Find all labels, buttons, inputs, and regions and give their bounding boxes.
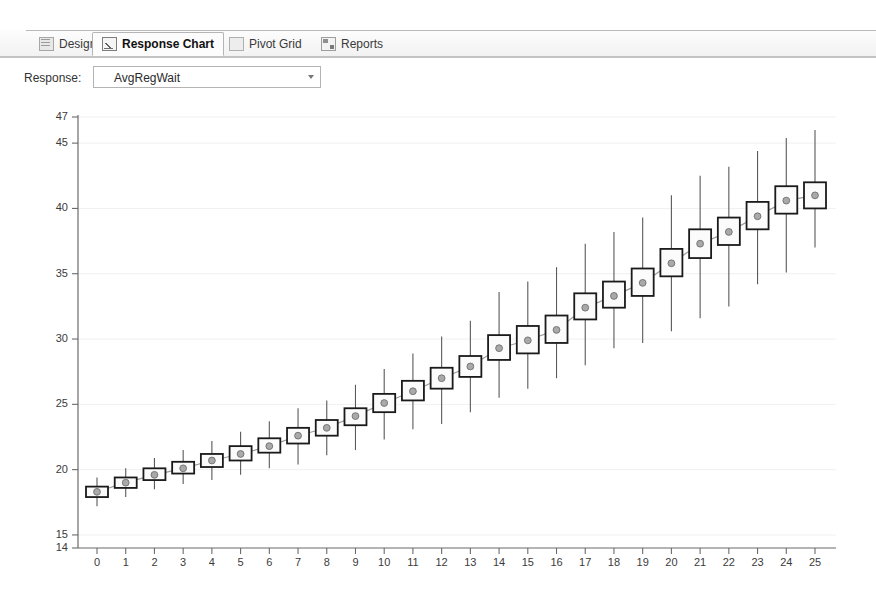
y-tick-label: 15 [56, 528, 68, 540]
tab-label: Response Chart [122, 37, 214, 51]
x-tick-label: 8 [324, 556, 330, 568]
response-label: Response: [24, 71, 81, 85]
x-tick-label: 6 [266, 556, 272, 568]
box-plot-item[interactable] [258, 421, 280, 468]
y-tick-label: 45 [56, 136, 68, 148]
x-tick-label: 21 [694, 556, 706, 568]
box-plot-item[interactable] [287, 408, 309, 464]
chart-icon [102, 37, 117, 51]
box-plot-item[interactable] [172, 450, 194, 484]
box-plot-item[interactable] [804, 130, 826, 248]
x-tick-label: 4 [209, 556, 215, 568]
box-plot-item[interactable] [517, 282, 539, 389]
box-plot-item[interactable] [230, 432, 252, 475]
y-tick-label: 40 [56, 201, 68, 213]
box-plot-item[interactable] [459, 321, 481, 412]
box-plot-item[interactable] [689, 176, 711, 318]
tab-strip: Design Response Chart Pivot Grid Reports [0, 30, 876, 58]
box-plot-item[interactable] [603, 232, 625, 348]
x-tick-label: 15 [522, 556, 534, 568]
box-plot-item[interactable] [632, 218, 654, 343]
pivot-icon [229, 37, 244, 51]
y-tick-label: 35 [56, 267, 68, 279]
y-tick-label: 47 [56, 110, 68, 122]
box-plot-item[interactable] [747, 151, 769, 284]
x-tick-label: 19 [637, 556, 649, 568]
box-plot-item[interactable] [143, 458, 165, 489]
tab-label: Reports [341, 37, 383, 51]
x-tick-label: 18 [608, 556, 620, 568]
box-plot-item[interactable] [344, 385, 366, 450]
x-tick-label: 7 [295, 556, 301, 568]
x-tick-label: 16 [550, 556, 562, 568]
tab-strip-top-divider [26, 30, 876, 31]
x-tick-label: 5 [238, 556, 244, 568]
box-plot-item[interactable] [115, 468, 137, 497]
grid-icon [39, 37, 54, 51]
tab-response-chart[interactable]: Response Chart [92, 32, 224, 56]
response-dropdown-value: AvgRegWait [114, 71, 180, 85]
tab-strip-bottom-divider [0, 56, 876, 58]
x-tick-label: 9 [352, 556, 358, 568]
tab-label: Pivot Grid [249, 37, 302, 51]
x-tick-label: 11 [407, 556, 418, 568]
box-plot-item[interactable] [775, 138, 797, 273]
y-tick-label: 30 [56, 332, 68, 344]
x-tick-label: 20 [665, 556, 677, 568]
y-tick-label: 25 [56, 397, 68, 409]
x-tick-label: 2 [151, 556, 157, 568]
response-dropdown[interactable]: AvgRegWait [93, 66, 321, 88]
box-plot-item[interactable] [373, 369, 395, 440]
box-plot-svg: 1415202530354045470123456789101112131415… [0, 100, 876, 600]
box-plot-item[interactable] [546, 267, 568, 378]
x-tick-label: 23 [751, 556, 763, 568]
response-selector-row: Response: AvgRegWait [0, 66, 876, 92]
x-tick-label: 25 [809, 556, 821, 568]
x-tick-label: 10 [378, 556, 390, 568]
x-tick-label: 14 [493, 556, 505, 568]
box-plot-item[interactable] [402, 353, 424, 429]
x-tick-label: 22 [723, 556, 735, 568]
tab-label: Design [59, 37, 96, 51]
tab-reports[interactable]: Reports [312, 32, 392, 56]
response-chart-plot: 1415202530354045470123456789101112131415… [0, 100, 876, 600]
x-tick-label: 12 [436, 556, 448, 568]
x-tick-label: 3 [180, 556, 186, 568]
x-tick-label: 13 [464, 556, 476, 568]
box-plot-item[interactable] [660, 195, 682, 331]
box-plot-item[interactable] [316, 400, 338, 455]
x-tick-label: 24 [780, 556, 792, 568]
box-plot-item[interactable] [201, 441, 223, 480]
tab-pivot-grid[interactable]: Pivot Grid [220, 32, 311, 56]
box-plot-item[interactable] [488, 292, 510, 398]
x-tick-label: 17 [579, 556, 591, 568]
x-tick-label: 0 [94, 556, 100, 568]
box-plot-item[interactable] [718, 167, 740, 307]
box-plot-item[interactable] [86, 477, 108, 506]
report-icon [321, 37, 336, 51]
y-tick-label: 20 [56, 463, 68, 475]
y-tick-label: 14 [56, 541, 68, 553]
box-plot-item[interactable] [574, 244, 596, 365]
x-tick-label: 1 [123, 556, 129, 568]
box-plot-item[interactable] [431, 336, 453, 424]
chevron-down-icon[interactable] [308, 75, 314, 79]
